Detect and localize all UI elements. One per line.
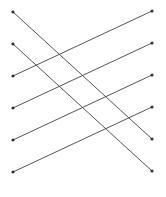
node-L0: [11, 10, 14, 13]
node-R0: [150, 9, 153, 12]
node-L5: [11, 170, 14, 173]
edge-L3-R1: [13, 43, 152, 108]
node-L3: [11, 106, 14, 109]
node-L4: [11, 138, 14, 141]
matching-diagram: [0, 0, 166, 197]
node-group: [11, 9, 153, 173]
edge-L4-R2: [13, 75, 152, 140]
node-R2: [150, 73, 153, 76]
node-L2: [11, 74, 14, 77]
edge-group: [13, 11, 152, 172]
edge-L5-R3: [13, 107, 152, 172]
node-R1: [150, 41, 153, 44]
node-R4: [150, 137, 153, 140]
node-R3: [150, 105, 153, 108]
edge-L2-R0: [13, 11, 152, 76]
node-R5: [150, 169, 153, 172]
node-L1: [11, 42, 14, 45]
